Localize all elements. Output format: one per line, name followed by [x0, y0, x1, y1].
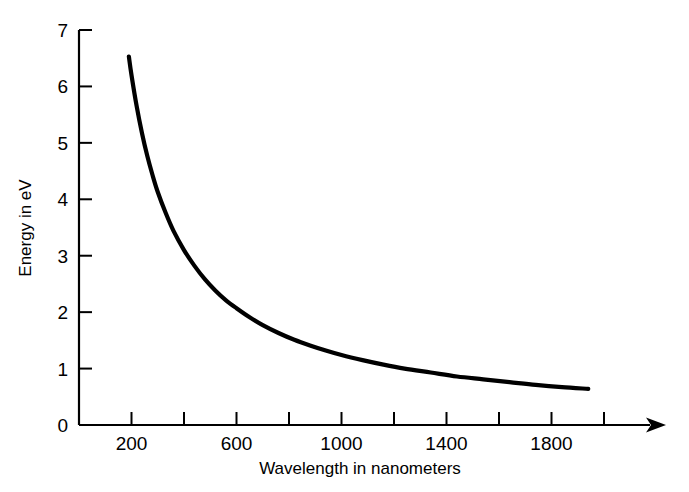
chart-background: [0, 0, 689, 492]
y-tick-label: 4: [57, 189, 68, 210]
chart-figure: 01234567 200600100014001800 Energy in eV…: [0, 0, 689, 492]
x-axis-title: Wavelength in nanometers: [259, 459, 461, 478]
y-tick-label: 3: [57, 246, 68, 267]
x-tick-label: 1000: [320, 433, 362, 454]
x-tick-label: 1400: [425, 433, 467, 454]
y-tick-label: 6: [57, 76, 68, 97]
x-tick-label: 200: [116, 433, 148, 454]
y-axis-title: Energy in eV: [16, 179, 35, 277]
y-tick-label: 0: [57, 415, 68, 436]
y-tick-label: 1: [57, 359, 68, 380]
y-tick-label: 5: [57, 133, 68, 154]
y-tick-label: 2: [57, 302, 68, 323]
plot-area: 01234567 200600100014001800 Energy in eV…: [0, 0, 689, 492]
x-tick-label: 600: [221, 433, 253, 454]
x-tick-label: 1800: [530, 433, 572, 454]
y-tick-label: 7: [57, 20, 68, 41]
